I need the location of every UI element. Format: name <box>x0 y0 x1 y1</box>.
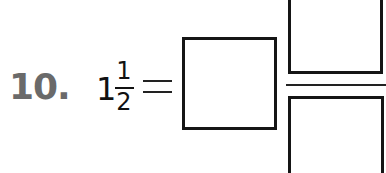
answer-fraction-bar <box>286 84 386 86</box>
equals-sign <box>143 80 172 102</box>
answer-whole-box[interactable] <box>182 37 277 130</box>
fraction-numerator: 1 <box>113 58 135 84</box>
answer-denominator-box[interactable] <box>288 96 384 173</box>
answer-numerator-box[interactable] <box>288 0 383 74</box>
problem-number: 10. <box>9 66 70 107</box>
fraction-denominator: 2 <box>113 89 135 115</box>
